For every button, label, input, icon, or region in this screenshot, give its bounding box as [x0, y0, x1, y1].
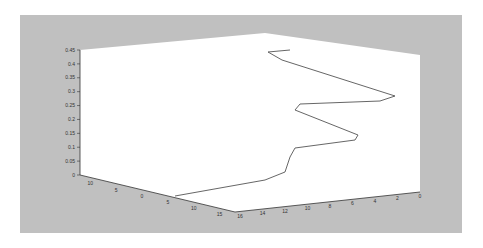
x-tick-label: 15 — [217, 211, 223, 217]
x-tick-label: 5 — [166, 199, 169, 205]
z-tick-label: 0.4 — [68, 61, 75, 67]
x-tick-label: 5 — [115, 187, 118, 193]
y-tick-label: 16 — [237, 213, 243, 219]
z-tick-label: 0.2 — [68, 116, 75, 122]
z-tick-label: 0.45 — [65, 47, 75, 53]
y-tick-label: 14 — [260, 210, 266, 216]
y-tick-label: 4 — [374, 198, 377, 204]
plot-3d: 0.450.40.350.30.250.20.150.10.050 105051… — [0, 0, 483, 248]
x-tick-label: 10 — [191, 205, 197, 211]
x-tick-label: 0 — [141, 193, 144, 199]
z-tick-label: 0.05 — [65, 158, 75, 164]
y-tick-label: 10 — [305, 205, 311, 211]
z-tick-label: 0.35 — [65, 74, 75, 80]
y-tick-label: 12 — [282, 208, 288, 214]
y-tick-label: 0 — [419, 193, 422, 199]
z-tick-label: 0 — [72, 172, 75, 178]
y-tick-label: 2 — [396, 195, 399, 201]
x-tick-label: 10 — [88, 180, 94, 186]
z-tick-label: 0.3 — [68, 88, 75, 94]
z-tick-label: 0.1 — [68, 144, 75, 150]
y-tick-label: 6 — [351, 200, 354, 206]
z-tick-label: 0.25 — [65, 102, 75, 108]
z-tick-label: 0.15 — [65, 130, 75, 136]
y-tick-label: 8 — [329, 203, 332, 209]
axes-pane — [80, 33, 420, 212]
z-axis-ticks: 0.450.40.350.30.250.20.150.10.050 — [65, 47, 80, 178]
